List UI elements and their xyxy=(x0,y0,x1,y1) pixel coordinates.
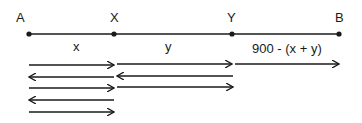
point-a-dot xyxy=(26,31,31,36)
segment-label-x: x xyxy=(73,40,80,53)
point-b-dot xyxy=(336,31,341,36)
point-label-a: A xyxy=(16,11,25,24)
journey-diagram xyxy=(0,0,362,123)
point-x-dot xyxy=(111,31,116,36)
point-label-b: B xyxy=(335,11,344,24)
point-label-x: X xyxy=(110,11,119,24)
segment-label-remaining: 900 - (x + y) xyxy=(252,42,322,55)
point-label-y: Y xyxy=(227,11,236,24)
segment-label-y: y xyxy=(165,40,172,53)
point-y-dot xyxy=(229,31,234,36)
